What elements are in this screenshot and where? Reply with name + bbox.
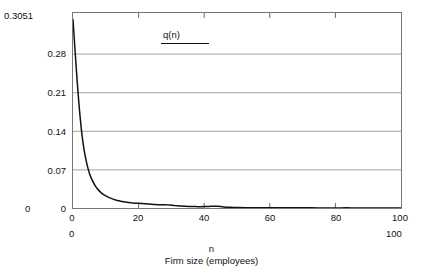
series-line-q-n: [73, 19, 401, 207]
legend-line-swatch: [161, 43, 209, 44]
x-axis-min-range-label: 0: [69, 228, 74, 239]
y-tick-label-0: 0.28: [36, 48, 66, 59]
y-axis-max-range-label: 0.3051: [4, 10, 33, 21]
x-tick-label-3: 60: [255, 212, 285, 223]
x-axis-title-symbol: n: [0, 243, 423, 254]
chart-container: 0.3051 0 0 100 0.28 0.21 0.14 0.07 0 0 2…: [0, 0, 423, 278]
x-tick-label-5: 100: [385, 212, 415, 223]
x-tick-label-2: 40: [189, 212, 219, 223]
x-tick-label-0: 0: [57, 212, 87, 223]
y-axis-min-range-label: 0: [25, 203, 30, 214]
y-tick-label-3: 0.07: [36, 165, 66, 176]
plot-canvas: [73, 13, 401, 208]
legend: q(n): [161, 29, 221, 44]
x-axis-title-label: Firm size (employees): [0, 255, 423, 266]
x-axis-max-range-label: 100: [386, 228, 402, 239]
legend-label-q-n: q(n): [161, 29, 221, 41]
y-tick-label-2: 0.14: [36, 126, 66, 137]
plot-area: q(n): [72, 12, 402, 209]
y-tick-label-1: 0.21: [36, 87, 66, 98]
x-tick-label-1: 20: [123, 212, 153, 223]
gridlines: [73, 54, 401, 170]
x-tick-label-4: 80: [321, 212, 351, 223]
